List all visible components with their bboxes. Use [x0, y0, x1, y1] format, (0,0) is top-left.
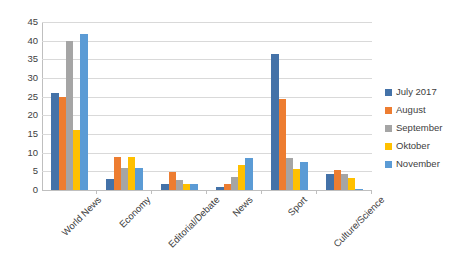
bar[interactable]: [169, 172, 176, 190]
x-axis-category-label: News: [230, 194, 255, 219]
gridline: [42, 190, 372, 191]
bar[interactable]: [293, 169, 300, 190]
x-axis-category-label: Economy: [116, 194, 152, 230]
y-axis-tick-label: 45: [4, 17, 38, 27]
bar[interactable]: [128, 157, 135, 190]
legend-swatch-icon: [385, 143, 392, 150]
bar-group-bars: [51, 22, 87, 190]
bar-group: [262, 22, 317, 190]
y-axis-tick-label: 0: [4, 185, 38, 195]
x-label-cell: Culture/Science: [317, 192, 372, 258]
y-axis-tick-label: 25: [4, 92, 38, 102]
legend-item-label: November: [396, 159, 440, 169]
legend-swatch-icon: [385, 161, 392, 168]
chart-legend: July 2017AugustSeptemberOktoberNovember: [385, 83, 451, 173]
bar[interactable]: [334, 170, 341, 190]
bar[interactable]: [106, 179, 113, 190]
x-label-cell: World News: [42, 192, 97, 258]
bar-group-bars: [271, 22, 307, 190]
legend-item[interactable]: September: [385, 119, 451, 137]
x-label-cell: News: [207, 192, 262, 258]
x-label-cell: Editorial/Debate: [152, 192, 207, 258]
legend-item-label: September: [396, 123, 442, 133]
bar-group-bars: [106, 22, 142, 190]
bar[interactable]: [341, 174, 348, 190]
bar[interactable]: [326, 174, 333, 190]
plot-area: [42, 22, 372, 190]
bar-group: [207, 22, 262, 190]
bar[interactable]: [183, 184, 190, 190]
bar-group: [42, 22, 97, 190]
x-label-cell: Economy: [97, 192, 152, 258]
legend-item-label: Oktober: [396, 141, 430, 151]
bar[interactable]: [51, 93, 58, 190]
x-axis-category-labels: World NewsEconomyEditorial/DebateNewsSpo…: [42, 192, 372, 258]
legend-item-label: July 2017: [396, 87, 437, 97]
y-axis-tick-label: 20: [4, 111, 38, 121]
legend-item[interactable]: Oktober: [385, 137, 451, 155]
bar[interactable]: [114, 157, 121, 190]
legend-item[interactable]: November: [385, 155, 451, 173]
bar[interactable]: [300, 162, 307, 190]
bar-group-bars: [326, 22, 362, 190]
bar-group: [317, 22, 372, 190]
y-axis-tick-label: 10: [4, 148, 38, 158]
bar[interactable]: [161, 184, 168, 190]
bar[interactable]: [348, 178, 355, 190]
bar[interactable]: [121, 168, 128, 190]
bar-chart: 454035302520151050 World NewsEconomyEdit…: [0, 0, 451, 259]
y-axis-tick-label: 30: [4, 73, 38, 83]
legend-item[interactable]: July 2017: [385, 83, 451, 101]
legend-item-label: August: [396, 105, 426, 115]
x-axis-category-label: Culture/Science: [331, 194, 386, 249]
legend-item[interactable]: August: [385, 101, 451, 119]
x-axis-category-label: Sport: [285, 194, 309, 218]
legend-swatch-icon: [385, 89, 392, 96]
y-axis-tick-label: 35: [4, 55, 38, 65]
bar[interactable]: [80, 34, 87, 190]
bar[interactable]: [238, 165, 245, 190]
y-axis-tick-label: 15: [4, 129, 38, 139]
bar[interactable]: [245, 158, 252, 190]
bar-group: [152, 22, 207, 190]
bar[interactable]: [279, 99, 286, 190]
bar[interactable]: [286, 158, 293, 190]
bar-group-bars: [161, 22, 197, 190]
y-axis-tick-label: 40: [4, 36, 38, 46]
bar[interactable]: [59, 97, 66, 190]
legend-swatch-icon: [385, 125, 392, 132]
bar-group: [97, 22, 152, 190]
bar[interactable]: [231, 177, 238, 190]
bar[interactable]: [73, 130, 80, 190]
bar[interactable]: [224, 184, 231, 190]
bar[interactable]: [216, 187, 223, 190]
bar[interactable]: [271, 54, 278, 190]
bar[interactable]: [176, 180, 183, 190]
bar[interactable]: [190, 184, 197, 190]
x-label-cell: Sport: [262, 192, 317, 258]
bar[interactable]: [355, 189, 362, 190]
y-axis-tick-label: 5: [4, 167, 38, 177]
bar-groups: [42, 22, 372, 190]
bar[interactable]: [66, 41, 73, 190]
legend-swatch-icon: [385, 107, 392, 114]
y-axis-tick-labels: 454035302520151050: [0, 22, 38, 190]
bar[interactable]: [135, 168, 142, 190]
bar-group-bars: [216, 22, 252, 190]
